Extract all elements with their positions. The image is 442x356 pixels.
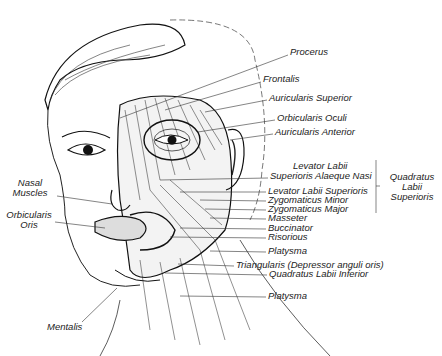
label-orbicularis-oculi: Orbicularis Oculi (277, 113, 347, 123)
label-platysma-upper: Platysma (268, 246, 307, 256)
group-label-quadratus-labii-superioris: Quadratus Labii Superioris (383, 172, 441, 202)
face-illustration (0, 0, 442, 356)
label-line: Muscles (4, 188, 56, 198)
label-mentalis: Mentalis (47, 322, 82, 332)
label-platysma-lower: Platysma (268, 291, 307, 301)
label-orbicularis-oris: Orbicularis Oris (0, 210, 58, 230)
label-quadratus-labii-inferior: Quadratus Labii Inferior (269, 269, 368, 279)
label-procerus: Procerus (290, 47, 328, 57)
label-frontalis: Frontalis (263, 74, 299, 84)
group-label-line: Superioris (383, 192, 441, 202)
label-auricularis-superior: Auricularis Superior (269, 93, 352, 103)
label-auricularis-anterior: Auricularis Anterior (275, 127, 355, 137)
facial-muscles-diagram: Procerus Frontalis Auricularis Superior … (0, 0, 442, 356)
label-levator-labii-line2: Superioris Alaeque Nasi (270, 171, 372, 181)
label-risorious: Risorious (268, 232, 308, 242)
label-nasal-muscles: Nasal Muscles (4, 178, 56, 198)
label-line: Oris (0, 220, 58, 230)
